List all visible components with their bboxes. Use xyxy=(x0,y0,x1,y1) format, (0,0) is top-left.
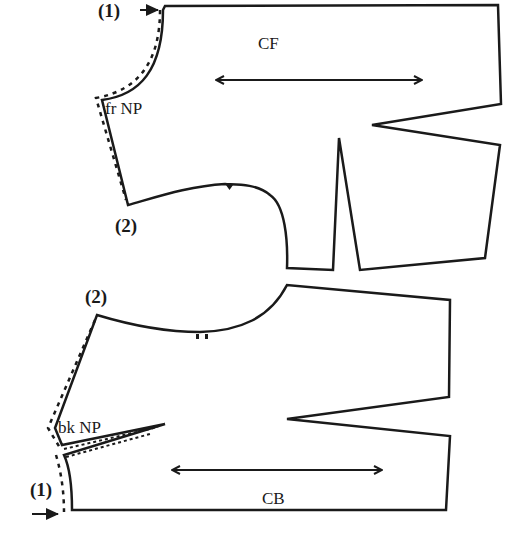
front-piece xyxy=(96,5,501,270)
back-point-1-label: (1) xyxy=(30,479,52,501)
back-armhole-notch-2 xyxy=(205,334,208,339)
back-armhole-notch-1 xyxy=(196,334,199,339)
back-outline xyxy=(55,285,450,510)
front-center-label: CF xyxy=(258,34,279,53)
pattern-diagram: (1) CF fr NP (2) (2) bk NP (1) CB xyxy=(0,0,525,552)
front-neck-label: fr NP xyxy=(105,99,142,118)
back-center-label: CB xyxy=(262,489,285,508)
front-point-1-label: (1) xyxy=(98,0,120,22)
back-point-2-label: (2) xyxy=(85,286,107,308)
front-armhole-notch xyxy=(226,185,233,190)
front-outline xyxy=(102,5,501,270)
back-neck-label: bk NP xyxy=(58,418,101,437)
back-piece xyxy=(32,285,450,514)
front-point-2-label: (2) xyxy=(115,215,137,237)
